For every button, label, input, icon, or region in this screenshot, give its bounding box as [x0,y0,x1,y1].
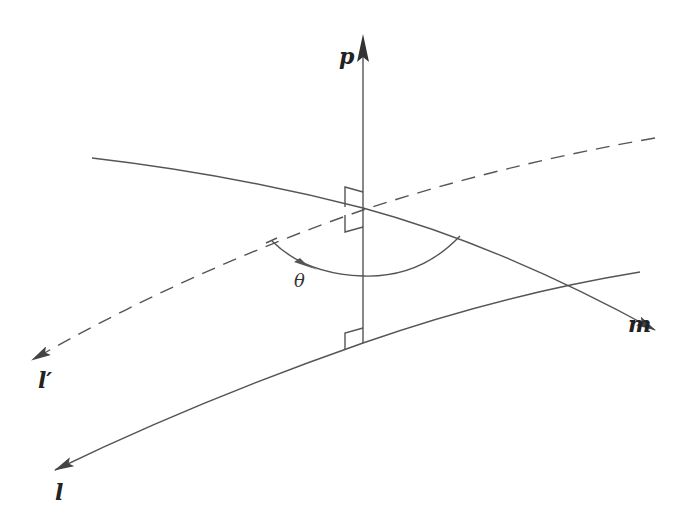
curve-m [92,158,655,330]
line-p [357,34,369,343]
diagram-canvas: p m l′ l θ [0,0,693,532]
label-theta: θ [294,270,305,291]
label-l-prime: l′ [38,367,52,393]
arrow-theta-icon [294,258,318,270]
right-angle-mark-middle [345,215,363,232]
label-l: l [55,479,63,505]
curve-l-prime [32,138,655,360]
label-p: p [339,43,355,69]
label-m: m [628,311,651,337]
